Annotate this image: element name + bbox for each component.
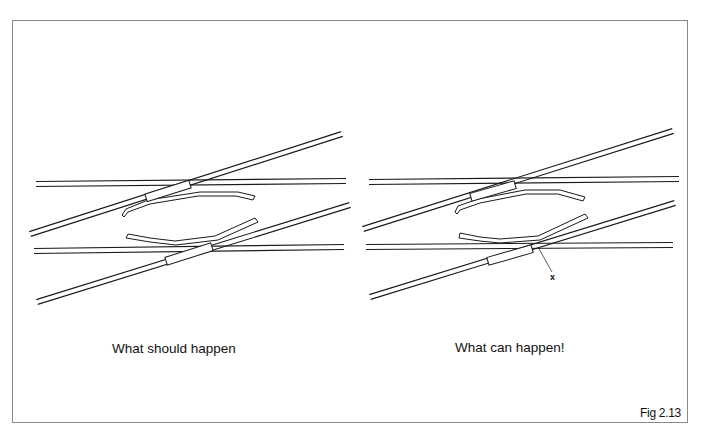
track-diagram [0,0,705,444]
caption-what-should-happen: What should happen [112,341,236,356]
pointer-line [538,247,552,272]
figure-number: Fig 2.13 [640,406,681,420]
panel-what-can-happen [362,129,679,300]
sliding-block-lower [487,245,533,265]
diagonal-track-upper [362,129,674,232]
moving-rail-lower [126,218,258,245]
caption-what-can-happen: What can happen! [455,340,565,355]
pointer-label-x: x [550,272,555,282]
panel-what-should-happen [29,132,351,305]
